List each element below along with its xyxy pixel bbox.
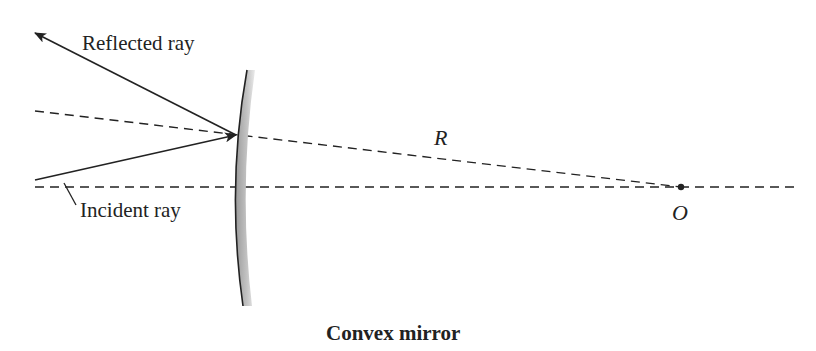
convex-mirror-diagram: Reflected ray Incident ray R O Convex mi… <box>0 0 816 351</box>
incident-ray-label: Incident ray <box>80 198 181 222</box>
incident-ray <box>35 135 236 180</box>
center-point-dot <box>678 184 684 190</box>
normal-line <box>35 111 681 187</box>
diagram-title: Convex mirror <box>326 321 460 345</box>
reflected-ray-label: Reflected ray <box>82 31 195 55</box>
radius-label: R <box>433 125 448 150</box>
center-label: O <box>672 200 688 225</box>
